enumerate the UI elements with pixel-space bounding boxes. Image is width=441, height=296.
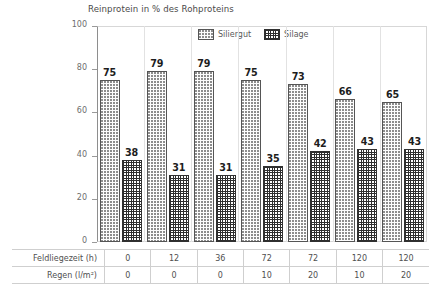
column-separator <box>238 26 239 242</box>
bar-group: 6543 <box>380 26 427 242</box>
bar-value-label: 66 <box>339 86 352 97</box>
y-axis-tick-label: 100 <box>72 20 87 29</box>
bar-silage[interactable]: 42 <box>310 151 330 242</box>
y-axis-tick-label: 40 <box>77 150 87 159</box>
bar-value-label: 31 <box>172 162 185 173</box>
bar-silage[interactable]: 43 <box>357 149 377 242</box>
column-separator <box>191 26 192 242</box>
table-cell: 20 <box>383 267 429 284</box>
table-cell: 12 <box>151 250 197 267</box>
bar-silage[interactable]: 31 <box>169 175 189 242</box>
bar-value-label: 65 <box>386 89 399 100</box>
column-separator <box>286 26 287 242</box>
y-axis-tick-label: 0 <box>82 236 87 245</box>
bar-group: 7931 <box>191 26 238 242</box>
table-cell: 10 <box>336 267 382 284</box>
bar-silage[interactable]: 43 <box>404 149 424 242</box>
table-cell: 72 <box>244 250 290 267</box>
table-cell: 120 <box>336 250 382 267</box>
table-row: Feldliegezeit (h)012367272120120 <box>12 250 429 267</box>
bar-silage[interactable]: 38 <box>122 160 142 242</box>
bar-siliergut[interactable]: 75 <box>241 80 261 242</box>
chart-figure: Reinprotein in % des Rohproteins 1008060… <box>0 0 441 296</box>
table-row-header: Feldliegezeit (h) <box>12 250 105 267</box>
table-cell: 10 <box>244 267 290 284</box>
bar-value-label: 43 <box>361 136 374 147</box>
y-axis-tick-label: 80 <box>77 63 87 72</box>
bar-group: 7535 <box>238 26 285 242</box>
bar-value-label: 79 <box>150 58 163 69</box>
table-cell: 120 <box>383 250 429 267</box>
y-axis-tick-label: 60 <box>77 106 87 115</box>
bar-value-label: 75 <box>103 67 116 78</box>
table-cell: 0 <box>105 267 151 284</box>
y-axis-tick-label: 20 <box>77 193 87 202</box>
bar-value-label: 35 <box>267 153 280 164</box>
bar-value-label: 75 <box>245 67 258 78</box>
y-axis-tick-mark <box>92 242 97 243</box>
bar-silage[interactable]: 31 <box>216 175 236 242</box>
table-cell: 0 <box>151 267 197 284</box>
table-cell: 36 <box>197 250 243 267</box>
data-table-body: Feldliegezeit (h)012367272120120Regen (l… <box>12 250 429 284</box>
y-axis: 100806040200 <box>0 26 97 242</box>
column-separator <box>380 26 381 242</box>
column-separator <box>144 26 145 242</box>
chart-title: Reinprotein in % des Rohproteins <box>88 4 234 14</box>
bar-group: 6643 <box>333 26 380 242</box>
table-cell: 0 <box>105 250 151 267</box>
bar-siliergut[interactable]: 73 <box>288 84 308 242</box>
table-row: Regen (l/m²)00010201020 <box>12 267 429 284</box>
bars-area: 7538793179317535734266436543 <box>97 26 427 242</box>
column-separator <box>333 26 334 242</box>
table-row-header: Regen (l/m²) <box>12 267 105 284</box>
table-cell: 20 <box>290 267 336 284</box>
bar-value-label: 42 <box>314 138 327 149</box>
bar-value-label: 38 <box>125 147 138 158</box>
bar-siliergut[interactable]: 79 <box>194 71 214 242</box>
data-table: Feldliegezeit (h)012367272120120Regen (l… <box>12 249 429 284</box>
bar-siliergut[interactable]: 75 <box>100 80 120 242</box>
bar-value-label: 31 <box>219 162 232 173</box>
bar-value-label: 43 <box>408 136 421 147</box>
bar-value-label: 79 <box>197 58 210 69</box>
bar-siliergut[interactable]: 66 <box>335 99 355 242</box>
bar-siliergut[interactable]: 79 <box>147 71 167 242</box>
bar-group: 7931 <box>144 26 191 242</box>
bar-silage[interactable]: 35 <box>263 166 283 242</box>
bar-siliergut[interactable]: 65 <box>382 102 402 242</box>
bar-value-label: 73 <box>292 71 305 82</box>
bar-group: 7342 <box>286 26 333 242</box>
table-cell: 72 <box>290 250 336 267</box>
table-cell: 0 <box>197 267 243 284</box>
bar-group: 7538 <box>97 26 144 242</box>
